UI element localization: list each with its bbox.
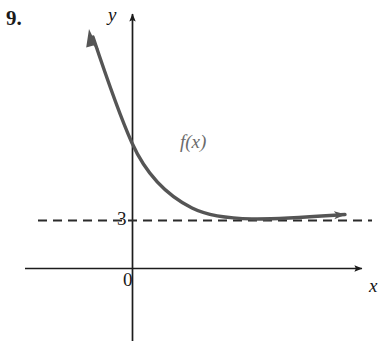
y-axis-label: y <box>108 5 116 24</box>
x-axis-label: x <box>369 276 377 295</box>
math-figure: 9. y x f(x) 3 0 <box>0 0 378 341</box>
curve-left-arrowhead <box>86 29 99 50</box>
problem-number: 9. <box>6 8 22 29</box>
asymptote-value-label: 3 <box>117 209 127 228</box>
function-curve-label: f(x) <box>180 132 206 151</box>
function-curve <box>93 37 345 219</box>
origin-label: 0 <box>123 270 133 289</box>
graph-canvas <box>0 0 378 341</box>
